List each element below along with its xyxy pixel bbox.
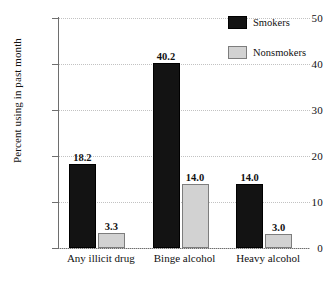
x-category-label: Binge alcohol <box>143 252 227 264</box>
bar-value-label: 14.0 <box>240 172 258 183</box>
legend-label-smokers: Smokers <box>253 17 290 28</box>
legend-label-nonsmokers: Nonsmokers <box>253 47 306 58</box>
x-category-label: Heavy alcohol <box>226 252 310 264</box>
gridline <box>59 156 310 157</box>
bar-chart: Percent using in past month 01020304050 … <box>0 0 323 286</box>
bar-value-label: 18.2 <box>73 152 91 163</box>
bar-value-label: 14.0 <box>186 172 204 183</box>
bar-nonsmokers: 3.0 <box>265 234 292 248</box>
bar-value-label: 3.3 <box>105 221 118 232</box>
legend-item-nonsmokers[interactable]: Nonsmokers <box>228 46 306 59</box>
chart-legend: Smokers Nonsmokers <box>228 16 306 76</box>
bar-nonsmokers: 14.0 <box>182 184 209 248</box>
x-category-label: Any illicit drug <box>59 252 143 264</box>
bar-value-label: 3.0 <box>272 222 285 233</box>
bar-smokers: 18.2 <box>69 164 96 248</box>
bar-smokers: 40.2 <box>153 63 180 248</box>
bar-nonsmokers: 3.3 <box>98 233 125 248</box>
gridline <box>59 110 310 111</box>
y-axis-title: Percent using in past month <box>12 6 23 196</box>
gridline <box>59 248 310 249</box>
nonsmokers-swatch-icon <box>228 46 247 59</box>
smokers-swatch-icon <box>228 16 247 29</box>
bar-value-label: 40.2 <box>157 51 175 62</box>
legend-item-smokers[interactable]: Smokers <box>228 16 306 29</box>
bar-smokers: 14.0 <box>236 184 263 248</box>
